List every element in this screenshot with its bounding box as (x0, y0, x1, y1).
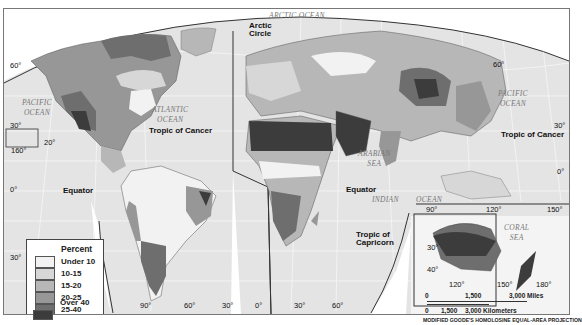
legend-swatch-20-25 (35, 292, 55, 304)
equator-east-label: Equator (346, 186, 376, 194)
lat-30-australia: 30° (427, 244, 438, 252)
indian-ocean-label: INDIAN (372, 195, 399, 205)
lon-160-hawaii: 160° (11, 147, 27, 155)
tropic-of-capricorn-label: Tropic ofCapricorn (356, 231, 394, 248)
equator-west-label: Equator (63, 187, 93, 195)
tropic-of-cancer-west-label: Tropic of Cancer (149, 127, 212, 135)
lon-60-sa: 60° (184, 302, 195, 310)
scale-km-1500: 1,500 (441, 307, 457, 314)
lon-120-australia: 120° (449, 281, 465, 289)
scale-miles-3000: 3,000 Miles (509, 292, 543, 299)
legend-swatch-under-10 (35, 256, 55, 268)
lat-30-west: 30° (10, 122, 21, 130)
lon-150-east: 150° (547, 206, 563, 214)
scale-line-km (427, 304, 489, 305)
lat-0-west: 0° (10, 186, 17, 194)
lon-150-australia: 150° (497, 281, 513, 289)
lat-60-east: 60° (493, 61, 504, 69)
lon-30-sa: 30° (222, 302, 233, 310)
legend-label: Over 40 (60, 298, 89, 307)
coral-sea-label: CORALSEA (504, 223, 529, 243)
legend-label: 10-15 (61, 269, 81, 278)
lon-0-af: 0° (255, 302, 262, 310)
legend-label: Under 10 (61, 257, 95, 266)
arabian-sea-label: ARABIANSEA (358, 149, 391, 169)
lon-90-east: 90° (426, 206, 437, 214)
scale-line-miles (427, 301, 527, 302)
north-america (31, 34, 181, 173)
tropic-of-cancer-east-label: Tropic of Cancer (501, 131, 564, 139)
scale-km-0: 0 (425, 307, 429, 314)
lat-30s-west: 30° (10, 254, 21, 262)
lat-0-east: 0° (557, 168, 564, 176)
pacific-ocean-west-label: PACIFICOCEAN (22, 98, 52, 118)
lon-30-af: 30° (294, 302, 305, 310)
legend-swatch-10-15 (35, 268, 55, 280)
scale-miles-0: 0 (425, 292, 429, 299)
lat-60-west: 60° (10, 62, 21, 70)
lat-40-australia: 40° (427, 266, 438, 274)
indian-ocean-label-2: OCEAN (416, 195, 442, 205)
legend-label: 15-20 (61, 281, 81, 290)
lon-90-sa: 90° (140, 302, 151, 310)
legend-swatch-15-20 (35, 280, 55, 292)
lon-60-af: 60° (332, 302, 343, 310)
world-map: ArcticCircle ARCTIC OCEAN PACIFICOCEAN A… (3, 8, 570, 315)
arctic-circle-label: ArcticCircle (249, 22, 272, 39)
legend-swatch-over-40 (33, 310, 53, 320)
projection-label: MODIFIED GOODE'S HOMOLOSINE EQUAL-AREA P… (423, 317, 582, 323)
atlantic-ocean-label: ATLANTICOCEAN (152, 105, 188, 125)
lon-120-east: 120° (486, 206, 502, 214)
lat-30-east: 30° (554, 122, 565, 130)
scale-km-3000: 3,000 Kilometers (465, 307, 517, 314)
lon-180-australia: 180° (536, 281, 552, 289)
legend-title: Percent (61, 244, 92, 254)
pacific-ocean-east-label: PACIFICOCEAN (498, 89, 528, 109)
scale-miles-1500: 1,500 (465, 292, 481, 299)
arctic-ocean-label: ARCTIC OCEAN (269, 11, 325, 21)
lat-20-hawaii: 20° (44, 139, 55, 147)
